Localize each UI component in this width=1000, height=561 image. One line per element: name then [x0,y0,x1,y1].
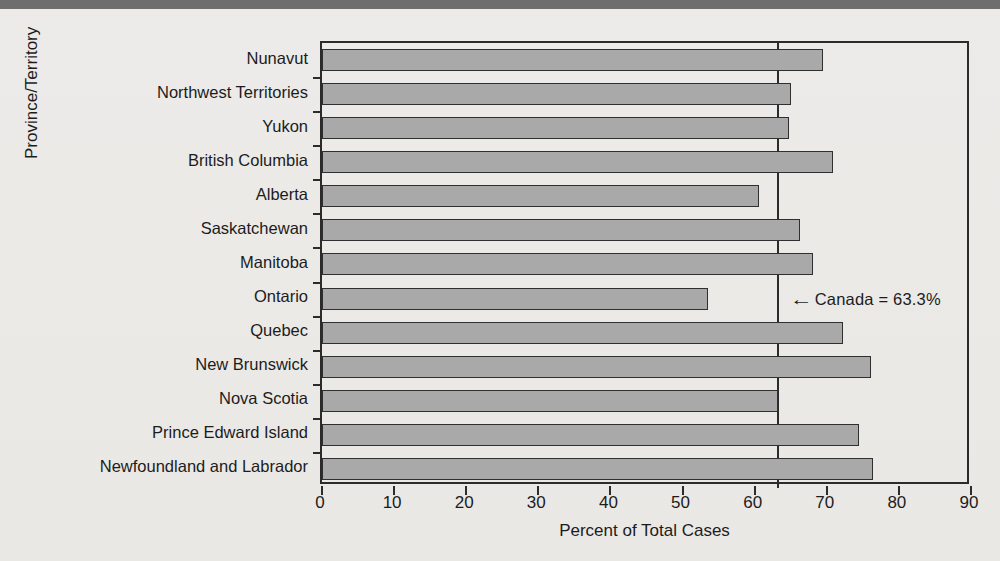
y-axis-tick [313,179,322,181]
x-tick-label: 20 [455,493,474,513]
y-label-saskatchewan: Saskatchewan [201,220,308,237]
y-label-alberta: Alberta [256,186,308,203]
y-label-nova-scotia: Nova Scotia [219,390,308,407]
bar-prince-edward-island [322,424,859,446]
bar-yukon [322,117,789,139]
y-label-nunavut: Nunavut [247,50,308,67]
bar-alberta [322,185,759,207]
y-axis-tick [313,145,322,147]
bar-row [322,247,967,281]
bar-northwest-territories [322,83,791,105]
y-axis-tick [313,452,322,454]
y-axis-category-labels: NunavutNorthwest TerritoriesYukonBritish… [0,41,314,484]
bar-row [322,77,967,111]
bar-row [322,350,967,384]
bar-manitoba [322,253,813,275]
y-axis-tick [313,282,322,284]
y-label-newfoundland-and-labrador: Newfoundland and Labrador [100,458,308,475]
bar-row [322,418,967,452]
y-label-quebec: Quebec [250,322,308,339]
y-axis-tick [313,111,322,113]
bar-row [322,384,967,418]
y-axis-tick [313,350,322,352]
y-label-northwest-territories: Northwest Territories [157,84,308,101]
bar-nunavut [322,49,823,71]
y-label-manitoba: Manitoba [240,254,308,271]
page-top-strip [0,0,1000,9]
chart-page: Province/Territory NunavutNorthwest Terr… [0,0,1000,561]
x-tick-label: 40 [599,493,618,513]
y-label-ontario: Ontario [254,288,308,305]
y-label-new-brunswick: New Brunswick [195,356,308,373]
bar-row [322,282,967,316]
y-axis-tick [313,77,322,79]
bar-british-columbia [322,151,833,173]
x-tick-label: 50 [671,493,690,513]
y-label-british-columbia: British Columbia [188,152,308,169]
y-label-yukon: Yukon [262,118,308,135]
y-axis-tick [313,384,322,386]
x-tick-label: 30 [527,493,546,513]
x-axis-tick-labels: 0102030405060708090 [320,493,969,519]
bar-row [322,213,967,247]
bar-ontario [322,288,708,310]
bar-row [322,145,967,179]
x-tick-label: 60 [743,493,762,513]
x-tick-label: 0 [315,493,324,513]
bar-new-brunswick [322,356,871,378]
bar-row [322,43,967,77]
y-axis-tick [313,418,322,420]
x-tick-label: 80 [887,493,906,513]
bar-row [322,316,967,350]
y-axis-tick [313,247,322,249]
y-axis-tick [313,316,322,318]
bar-chart: Province/Territory NunavutNorthwest Terr… [0,9,1000,561]
plot-area: ←Canada = 63.3% [320,41,969,484]
bar-nova-scotia [322,390,778,412]
x-tick-label: 90 [960,493,979,513]
bar-row [322,111,967,145]
bar-row [322,452,967,486]
bar-row [322,179,967,213]
x-tick-label: 70 [815,493,834,513]
bar-saskatchewan [322,219,800,241]
x-axis-title: Percent of Total Cases [320,521,969,541]
y-axis-tick [313,213,322,215]
bar-quebec [322,322,843,344]
bar-newfoundland-and-labrador [322,458,873,480]
x-tick-label: 10 [383,493,402,513]
y-label-prince-edward-island: Prince Edward Island [152,424,308,441]
